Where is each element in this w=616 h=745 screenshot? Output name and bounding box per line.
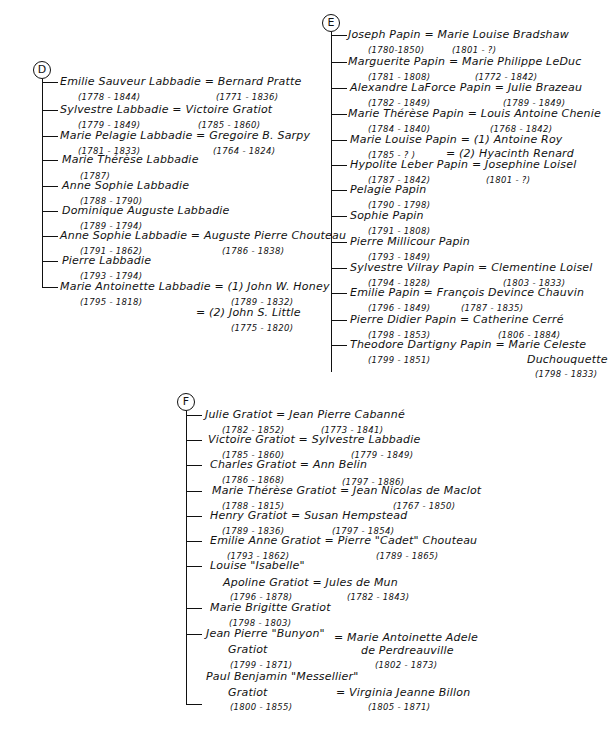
branch-line [186, 566, 202, 567]
family-e-entry-3: Alexandre LaForce Papin = Julie Brazeau [350, 81, 582, 94]
family-e-entry-11: Emilie Papin = François Devince Chauvin [350, 286, 584, 299]
branch-line [331, 140, 347, 141]
branch-line [42, 261, 58, 262]
family-d-entry-3: Marie Pelagie Labbadie = Gregoire B. Sar… [60, 129, 310, 142]
spouse-name: = Marie Antoinette Adele [334, 631, 478, 644]
spouse-name: = Virginia Jeanne Billon [336, 686, 470, 699]
branch-line [186, 541, 202, 542]
spouse-dates: (1801 - ?) [452, 45, 496, 55]
family-e-entry-2: Marguerite Papin = Marie Philippe LeDuc [348, 55, 582, 68]
family-d-entry-1: Emilie Sauveur Labbadie = Bernard Pratte [60, 75, 302, 88]
branch-line [42, 287, 58, 288]
branch-line [331, 242, 347, 243]
family-f-label: F [177, 393, 195, 411]
spouse-dates: (1805 - 1871) [368, 702, 430, 712]
entry-name-continued: Gratiot [228, 686, 268, 699]
spouse-dates: (1802 - 1873) [375, 660, 437, 670]
spouse-name-continued: de Perdreauville [361, 644, 454, 657]
branch-line [331, 345, 347, 346]
entry-name-continued: Apoline Gratiot = Jules de Mun [223, 576, 398, 589]
birth-death-dates: (1795 - 1818) [80, 297, 142, 307]
family-e-entry-1: Joseph Papin = Marie Louise Bradshaw [348, 28, 569, 41]
family-d-entry-6: Dominique Auguste Labbadie [62, 204, 230, 217]
branch-line [42, 211, 58, 212]
family-e-entry-9: Pierre Millicour Papin [350, 235, 470, 248]
spouse-dates: (1798 - 1833) [535, 369, 597, 379]
family-f-entry-4: Marie Thérèse Gratiot = Jean Nicolas de … [212, 484, 481, 497]
family-d-entry-2: Sylvestre Labbadie = Victoire Gratiot [60, 103, 272, 116]
spouse-dates: (1782 - 1843) [347, 592, 409, 602]
spouse-dates: (1786 - 1838) [222, 246, 284, 256]
family-e-entry-4: Marie Thérèse Papin = Louis Antoine Chen… [348, 107, 601, 120]
branch-line [331, 88, 347, 89]
branch-line [186, 516, 202, 517]
family-d-entry-9: Marie Antoinette Labbadie = (1) John W. … [60, 280, 330, 293]
spouse-dates: (1787 - 1835) [461, 303, 523, 313]
family-d-label: D [33, 61, 51, 79]
family-f-entry-3: Charles Gratiot = Ann Belin [210, 458, 367, 471]
branch-line [331, 35, 347, 36]
family-f-entry-2: Victoire Gratiot = Sylvestre Labbadie [208, 433, 420, 446]
family-d-entry-5: Anne Sophie Labbadie [62, 179, 189, 192]
branch-line [42, 186, 58, 187]
branch-line [186, 634, 202, 635]
family-e-entry-8: Sophie Papin [350, 209, 424, 222]
family-f-entry-7: Louise "Isabelle" [210, 559, 305, 572]
family-f-entry-5: Henry Gratiot = Susan Hempstead [210, 509, 407, 522]
second-spouse: = (2) John S. Little [196, 306, 301, 319]
branch-line [331, 268, 347, 269]
birth-death-dates: (1796 - 1849) [368, 303, 430, 313]
family-e-entry-5: Marie Louise Papin = (1) Antoine Roy [350, 133, 563, 146]
family-e-entry-6: Hypolite Leber Papin = Josephine Loisel [350, 158, 576, 171]
branch-line [186, 465, 202, 466]
birth-death-dates: (1799 - 1871) [230, 660, 292, 670]
branch-line [331, 62, 347, 63]
family-e-entry-10: Sylvestre Vilray Papin = Clementine Lois… [350, 261, 593, 274]
spouse-dates: (1789 - 1865) [376, 551, 438, 561]
spouse-dates: (1764 - 1824) [213, 146, 275, 156]
branch-line [331, 293, 347, 294]
branch-line [331, 216, 347, 217]
branch-line [42, 82, 58, 83]
branch-line [331, 320, 347, 321]
branch-line [186, 415, 202, 416]
branch-line [331, 190, 347, 191]
family-f-entry-9: Jean Pierre "Bunyon" [206, 627, 325, 640]
family-f-entry-6: Emilie Anne Gratiot = Pierre "Cadet" Cho… [210, 534, 477, 547]
second-spouse-dates: (1775 - 1820) [231, 323, 293, 333]
birth-death-dates: (1780-1850) [368, 45, 424, 55]
spouse-dates: (1801 - ?) [486, 175, 530, 185]
family-f-entry-10: Paul Benjamin "Messellier" [206, 670, 359, 683]
branch-line [331, 165, 347, 166]
family-d-entry-8: Pierre Labbadie [62, 254, 151, 267]
branch-line [186, 491, 202, 492]
family-f-entry-1: Julie Gratiot = Jean Pierre Cabanné [205, 408, 405, 421]
family-d-entry-7: Anne Sophie Labbadie = Auguste Pierre Ch… [60, 229, 346, 242]
branch-line [331, 114, 347, 115]
family-e-label: E [322, 14, 340, 32]
branch-line [42, 110, 58, 111]
family-e-entry-7: Pelagie Papin [350, 183, 427, 196]
branch-line [186, 608, 202, 609]
entry-name-continued: Gratiot [228, 643, 268, 656]
birth-death-dates: (1799 - 1851) [368, 355, 430, 365]
family-f-trunk [186, 411, 187, 705]
family-d-entry-4: Marie Thérèse Labbadie [62, 153, 199, 166]
branch-line [42, 236, 58, 237]
spouse-dates: (1771 - 1836) [216, 92, 278, 102]
family-e-entry-13: Theodore Dartigny Papin = Marie Celeste [350, 338, 586, 351]
branch-line [186, 440, 202, 441]
family-f-entry-8: Marie Brigitte Gratiot [210, 601, 331, 614]
spouse-name-continued: Duchouquette [527, 353, 608, 366]
branch-line [186, 704, 202, 705]
birth-death-dates: (1800 - 1855) [230, 702, 292, 712]
birth-death-dates: (1778 - 1844) [78, 92, 140, 102]
branch-line [42, 160, 58, 161]
branch-line [42, 136, 58, 137]
family-e-entry-12: Pierre Didier Papin = Catherine Cerré [350, 313, 564, 326]
